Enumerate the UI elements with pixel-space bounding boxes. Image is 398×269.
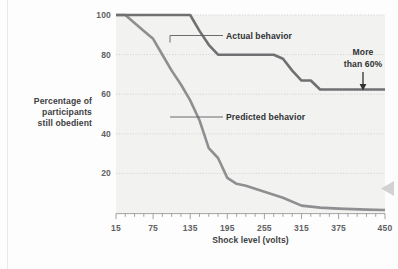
y-axis-title-line-3: still obedient bbox=[38, 118, 92, 128]
callout-line-2: than 60% bbox=[344, 59, 383, 69]
actual-behavior-label: Actual behavior bbox=[226, 31, 293, 41]
x-axis-tick-labels: 1575135195255315375450 bbox=[111, 223, 392, 233]
x-axis-title: Shock level (volts) bbox=[212, 235, 289, 245]
y-axis-title-block: Percentage of participants still obedien… bbox=[34, 96, 92, 128]
x-tick-label-75: 75 bbox=[148, 223, 158, 233]
x-tick-label-15: 15 bbox=[111, 223, 121, 233]
y-axis-title-line-1: Percentage of bbox=[34, 96, 92, 106]
x-tick-label-255: 255 bbox=[257, 223, 272, 233]
x-axis-major-ticks bbox=[116, 214, 385, 220]
y-axis-title-line-2: participants bbox=[42, 107, 92, 117]
y-tick-60: 60 bbox=[101, 89, 111, 99]
x-tick-label-315: 315 bbox=[294, 223, 309, 233]
callout-line-1: More bbox=[353, 47, 374, 57]
y-tick-40: 40 bbox=[101, 129, 111, 139]
x-tick-label-375: 375 bbox=[331, 223, 346, 233]
x-tick-label-450: 450 bbox=[378, 223, 393, 233]
predicted-behavior-label: Predicted behavior bbox=[226, 112, 306, 122]
line-chart-svg: 100 80 60 40 20 1575135195255315375450 S… bbox=[0, 0, 398, 269]
y-tick-80: 80 bbox=[101, 50, 111, 60]
x-tick-label-135: 135 bbox=[183, 223, 198, 233]
y-tick-20: 20 bbox=[101, 168, 111, 178]
y-axis-tick-labels: 100 80 60 40 20 bbox=[96, 10, 111, 178]
x-tick-label-195: 195 bbox=[220, 223, 235, 233]
y-tick-100: 100 bbox=[96, 10, 111, 20]
x-axis-minor-ticks bbox=[125, 214, 375, 217]
chart-figure: 100 80 60 40 20 1575135195255315375450 S… bbox=[0, 0, 398, 269]
